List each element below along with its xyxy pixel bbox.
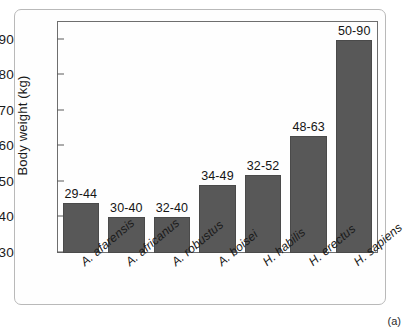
y-tick-label: 30: [0, 245, 14, 260]
bar-value-label: 32-40: [148, 201, 196, 215]
y-tick-label: 40: [0, 209, 14, 224]
y-axis-title: Body weight (kg): [15, 41, 30, 211]
bar-value-label: 30-40: [102, 201, 150, 215]
y-tick-label: 70: [0, 102, 14, 117]
figure: 30405060708090 Body weight (kg) 29-4430-…: [0, 0, 406, 331]
bar-value-label: 34-49: [193, 169, 241, 183]
figure-caption: (a): [388, 315, 401, 327]
bar: [336, 40, 372, 253]
y-tick-label: 90: [0, 31, 14, 46]
y-tick-label: 80: [0, 67, 14, 82]
bar-value-label: 29-44: [57, 187, 105, 201]
bar-value-label: 32-52: [239, 159, 287, 173]
bar-value-label: 50-90: [330, 24, 378, 38]
bar-value-label: 48-63: [284, 120, 332, 134]
y-tick-label: 60: [0, 138, 14, 153]
y-tick-label: 50: [0, 173, 14, 188]
